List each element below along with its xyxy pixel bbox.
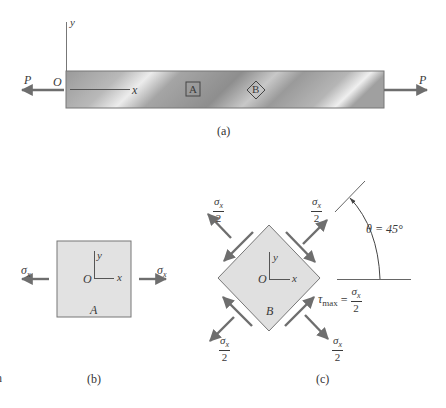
fig-c-y-axis-label: y bbox=[273, 252, 278, 263]
fig-c-x-axis-label: x bbox=[292, 273, 297, 284]
fig-c-element-label: B bbox=[266, 305, 273, 317]
element-b-marker-label: B bbox=[252, 84, 259, 95]
normal-stress-label-nw: σx 2 bbox=[213, 196, 224, 224]
angle-arc bbox=[350, 198, 380, 279]
fig-b-origin-label: O bbox=[83, 273, 92, 285]
shear-stress-label: τmax = σx 2 bbox=[318, 286, 362, 314]
fig-b-x-axis-label: x bbox=[117, 272, 122, 283]
normal-stress-label-ne: σx 2 bbox=[311, 196, 322, 224]
fig-b-element-label: A bbox=[90, 304, 97, 316]
fig-c-origin-label: O bbox=[258, 273, 267, 285]
figure-a bbox=[22, 22, 427, 108]
normal-stress-label-sw: σx 2 bbox=[219, 335, 230, 363]
caption-c: (c) bbox=[316, 372, 329, 387]
normal-stress-label-se: σx 2 bbox=[332, 335, 343, 363]
load-right-label: P bbox=[419, 74, 426, 86]
fig-b-stress-right-label: σx bbox=[157, 264, 166, 279]
figure-c bbox=[208, 181, 411, 341]
fig-b-stress-left-label: σx bbox=[21, 264, 30, 279]
fig-a-y-axis-label: y bbox=[70, 17, 75, 28]
clipped-text-fragment: n bbox=[0, 372, 2, 384]
shear-stress-fraction: σx 2 bbox=[351, 286, 362, 314]
angle-label: θ = 45° bbox=[366, 223, 403, 235]
caption-b: (b) bbox=[87, 372, 101, 387]
caption-a: (a) bbox=[217, 124, 230, 139]
fig-a-origin-label: O bbox=[53, 76, 62, 88]
load-left-label: P bbox=[24, 74, 31, 86]
fig-b-y-axis-label: y bbox=[97, 250, 102, 261]
rotated-reference-line bbox=[335, 181, 365, 212]
element-a-marker-label: A bbox=[189, 84, 197, 95]
fig-a-x-axis-label: x bbox=[132, 84, 137, 96]
normal-stress-arrow-se bbox=[305, 315, 328, 339]
